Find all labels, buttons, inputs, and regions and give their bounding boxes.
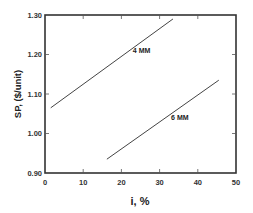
x-tick-label: 40	[194, 178, 202, 187]
y-axis-ticks: 0.901.001.101.201.30	[27, 11, 236, 178]
y-tick-label: 0.90	[27, 169, 42, 178]
x-tick-label: 10	[79, 178, 87, 187]
plot-frame	[45, 15, 236, 173]
x-tick-label: 20	[117, 178, 125, 187]
series-label: 4 MM	[133, 47, 151, 54]
y-tick-label: 1.10	[27, 90, 42, 99]
x-tick-label: 30	[155, 178, 163, 187]
y-tick-label: 1.20	[27, 50, 42, 59]
x-axis-ticks: 01020304050	[43, 15, 240, 187]
x-tick-label: 50	[232, 178, 240, 187]
plot-border	[45, 15, 236, 173]
y-tick-label: 1.30	[27, 11, 42, 20]
series-line-6-mm	[107, 80, 219, 159]
chart: 01020304050 0.901.001.101.201.30 4 MM6 M…	[0, 0, 253, 213]
data-series: 4 MM6 MM	[51, 19, 219, 159]
y-tick-label: 1.00	[27, 129, 42, 138]
x-axis-title: i, %	[131, 195, 150, 207]
x-tick-label: 0	[43, 178, 47, 187]
series-label: 6 MM	[171, 114, 189, 121]
y-axis-title: SP, ($/unit)	[12, 70, 23, 118]
series-line-4-mm	[51, 19, 173, 108]
